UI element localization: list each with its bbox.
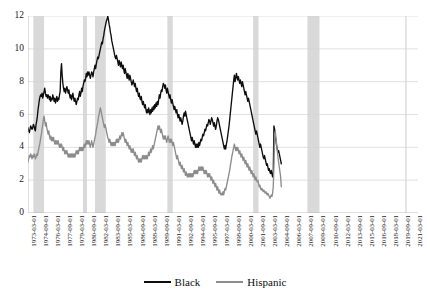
- x-tick-label: 2000-03-01: [248, 215, 255, 247]
- x-tick-label: 2021-03-01: [417, 215, 424, 247]
- legend-label-black: Black: [175, 277, 201, 288]
- x-tick-label: 2019-09-01: [405, 215, 412, 247]
- x-tick-label: 2004-09-01: [284, 215, 291, 247]
- y-tick-label: 10: [2, 44, 24, 54]
- y-tick-label: 8: [2, 77, 24, 87]
- legend-item-hispanic: Hispanic: [216, 277, 286, 288]
- y-tick-label: 6: [2, 110, 24, 120]
- x-tick-label: 1988-03-01: [152, 215, 159, 247]
- chart-legend: Black Hispanic: [0, 272, 430, 292]
- x-tick-label: 2015-03-01: [369, 215, 376, 247]
- y-tick-label: 4: [2, 143, 24, 153]
- x-tick-label: 2016-09-01: [381, 215, 388, 247]
- x-tick-label: 1983-09-01: [115, 215, 122, 247]
- x-tick-label: 1989-09-01: [164, 215, 171, 247]
- x-tick-label: 1982-03-01: [103, 215, 110, 247]
- plot-area: [28, 16, 418, 213]
- x-tick-label: 1979-03-01: [79, 215, 86, 247]
- x-tick-label: 1997-03-01: [224, 215, 231, 247]
- x-tick-label: 1973-03-01: [31, 215, 38, 247]
- x-tick-label: 1992-09-01: [188, 215, 195, 247]
- x-tick-label: 1995-09-01: [212, 215, 219, 247]
- legend-swatch-black: [144, 281, 171, 284]
- chart-svg: [28, 16, 418, 213]
- x-tick-label: 1977-09-01: [67, 215, 74, 247]
- series-lines: [28, 16, 281, 198]
- x-tick-label: 1994-03-01: [200, 215, 207, 247]
- legend-item-black: Black: [144, 277, 201, 288]
- x-tick-label: 1986-09-01: [140, 215, 147, 247]
- legend-swatch-hispanic: [216, 281, 243, 284]
- x-tick-label: 2001-09-01: [260, 215, 267, 247]
- x-tick-label: 1974-09-01: [43, 215, 50, 247]
- x-tick-label: 1991-03-01: [176, 215, 183, 247]
- y-tick-label: 2: [2, 175, 24, 185]
- x-tick-label: 1985-03-01: [127, 215, 134, 247]
- x-tick-label: 1976-03-01: [55, 215, 62, 247]
- x-tick-label: 2010-09-01: [333, 215, 340, 247]
- x-tick-label: 1980-09-01: [91, 215, 98, 247]
- x-tick-label: 2006-03-01: [296, 215, 303, 247]
- x-tick-label: 2007-09-01: [308, 215, 315, 247]
- x-tick-label: 2018-03-01: [393, 215, 400, 247]
- x-axis-tick-labels: 1973-03-011974-09-011976-03-011977-09-01…: [28, 215, 418, 273]
- series-line-hispanic: [28, 108, 281, 198]
- y-tick-label: 12: [2, 11, 24, 21]
- legend-label-hispanic: Hispanic: [247, 277, 286, 288]
- x-tick-label: 2012-03-01: [345, 215, 352, 247]
- x-tick-label: 2013-09-01: [357, 215, 364, 247]
- y-tick-label: 0: [2, 208, 24, 218]
- x-tick-label: 1998-09-01: [236, 215, 243, 247]
- y-axis-tick-labels: 024681012: [0, 16, 24, 213]
- x-tick-label: 2009-03-01: [320, 215, 327, 247]
- x-tick-label: 2003-03-01: [272, 215, 279, 247]
- chart-container: 024681012 1973-03-011974-09-011976-03-01…: [0, 0, 430, 294]
